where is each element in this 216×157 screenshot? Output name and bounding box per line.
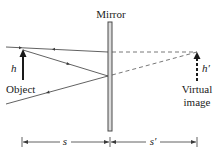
virtual-rays bbox=[112, 52, 197, 75]
object-height-label: h bbox=[11, 62, 17, 74]
image-height-label: h′ bbox=[202, 62, 210, 74]
ray-incident bbox=[23, 50, 108, 76]
virtual-image-label-line1: Virtual bbox=[178, 83, 216, 95]
mirror-label: Mirror bbox=[92, 8, 130, 20]
object-label: Object bbox=[6, 83, 35, 95]
mirror bbox=[108, 22, 112, 131]
virtual-image-arrow bbox=[194, 52, 201, 81]
object-arrow bbox=[20, 49, 27, 80]
object-distance-label: s bbox=[59, 135, 71, 147]
dimension-lines bbox=[22, 137, 197, 147]
image-distance-label: s′ bbox=[146, 135, 160, 147]
virtual-image-label-line2: image bbox=[178, 96, 216, 108]
optics-diagram bbox=[0, 0, 216, 157]
ray-top bbox=[6, 46, 108, 52]
